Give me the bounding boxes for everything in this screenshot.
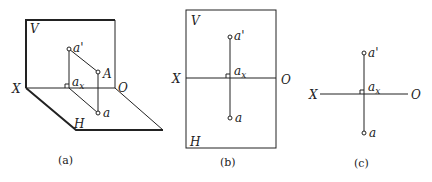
label-X: X [308, 88, 318, 102]
v-plane-border [26, 20, 115, 88]
label-V: V [30, 22, 40, 36]
label-X: X [11, 82, 21, 96]
label-V: V [191, 14, 201, 28]
projection-frame [186, 10, 276, 148]
point-a-prime [67, 47, 71, 51]
panel-c: X O a' ax a (c) [308, 46, 421, 170]
label-H: H [189, 135, 201, 149]
label-a-prime: a' [73, 41, 83, 55]
point-a [96, 111, 100, 115]
caption-b: (b) [220, 156, 236, 169]
label-H: H [73, 117, 85, 131]
label-O: O [411, 88, 421, 102]
label-X: X [171, 72, 181, 86]
label-ax: ax [368, 80, 380, 96]
label-a: a [369, 126, 376, 140]
projector-ax-a [69, 88, 98, 113]
point-A [96, 70, 100, 74]
label-ax: ax [234, 64, 246, 80]
point-a [362, 131, 366, 135]
caption-a: (a) [58, 154, 73, 167]
panel-a: V H X O a' A ax a (a) [11, 20, 163, 167]
projection-diagram: V H X O a' A ax a (a) V H X O a' ax a (b… [0, 0, 432, 182]
label-A: A [102, 67, 112, 81]
label-a: a [103, 106, 110, 120]
label-O: O [281, 73, 291, 87]
h-plane-border [26, 88, 163, 130]
label-a-prime: a' [368, 46, 378, 60]
right-angle-mark [226, 74, 230, 78]
label-a-prime: a' [234, 29, 244, 43]
point-a [228, 116, 232, 120]
caption-c: (c) [354, 157, 369, 170]
right-angle-mark [360, 90, 364, 94]
label-ax: ax [72, 75, 84, 91]
label-a: a [235, 111, 242, 125]
point-a-prime [362, 51, 366, 55]
panel-b: V H X O a' ax a (b) [171, 10, 291, 169]
right-angle-mark [65, 84, 69, 88]
point-a-prime [228, 35, 232, 39]
label-O: O [118, 81, 128, 95]
